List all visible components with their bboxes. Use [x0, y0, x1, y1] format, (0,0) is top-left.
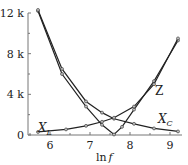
y-tick-label: 8 k: [7, 48, 24, 61]
y-tick-label: 0: [17, 129, 24, 142]
data-point: [101, 120, 104, 123]
x-tick-label: 6: [47, 139, 54, 152]
data-point: [133, 108, 136, 111]
x-tick-label: 7: [87, 139, 94, 152]
y-tick-label: 12 k: [0, 7, 24, 20]
data-point: [85, 100, 88, 103]
data-point: [85, 124, 88, 127]
x-tick-label: 8: [127, 139, 134, 152]
data-point: [121, 125, 124, 128]
data-point: [101, 123, 104, 126]
y-tick-label: 4 k: [7, 88, 24, 101]
data-point: [133, 122, 136, 125]
data-point: [101, 111, 104, 114]
data-point: [61, 73, 64, 76]
series-label-xl: XL: [37, 121, 52, 137]
data-point: [37, 8, 40, 11]
series-label-z: Z: [155, 84, 163, 98]
data-point: [177, 130, 180, 133]
impedance-chart: 04 k8 k12 k6789 Z XL XC lnf: [0, 0, 188, 165]
series-label-xc: XC: [157, 112, 173, 128]
x-axis-title: lnf: [96, 151, 115, 164]
data-point: [113, 133, 116, 136]
data-point: [61, 67, 64, 70]
data-point: [177, 37, 180, 40]
data-point: [133, 105, 136, 108]
x-tick-label: 9: [167, 139, 174, 152]
data-point: [113, 116, 116, 119]
data-point: [85, 105, 88, 108]
data-point: [65, 128, 68, 131]
data-point: [153, 127, 156, 130]
